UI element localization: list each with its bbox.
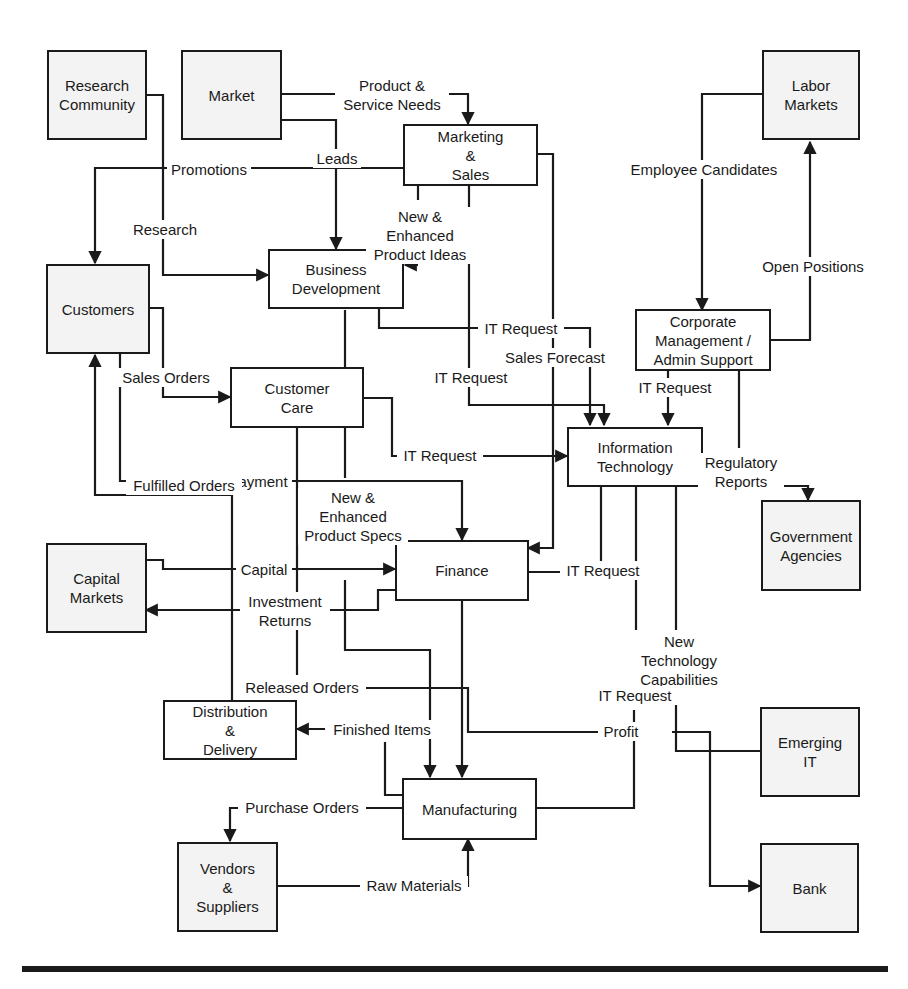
flow-label-employee-candidates: Employee Candidates <box>622 160 786 179</box>
node-finance: Finance <box>395 540 529 601</box>
flow-label-open-positions: Open Positions <box>756 257 870 276</box>
flow-label-profit: Profit <box>598 722 644 741</box>
node-emerging-it: Emerging IT <box>760 707 860 797</box>
flow-label-new-technology-capabilities: New Technology Capabilities <box>630 632 728 689</box>
flow-label-new-enhanced-product-specs: New & Enhanced Product Specs <box>298 488 408 545</box>
node-market: Market <box>181 50 282 140</box>
node-customer-care: Customer Care <box>230 367 364 428</box>
flow-label-promotions: Promotions <box>167 160 251 179</box>
flow-label-leads: Leads <box>313 149 361 168</box>
flow-label-it-request-manufacturing: IT Request <box>592 686 678 705</box>
node-labor-markets: Labor Markets <box>762 50 860 140</box>
flow-label-it-request-bizdev: IT Request <box>478 319 564 338</box>
node-vendors-suppliers: Vendors & Suppliers <box>177 842 278 932</box>
flow-label-investment-returns: Investment Returns <box>240 592 330 630</box>
flow-label-regulatory-reports: Regulatory Reports <box>698 453 784 491</box>
node-customers: Customers <box>46 264 150 354</box>
flow-label-fulfilled-orders: Fulfilled Orders <box>126 476 242 495</box>
node-bank: Bank <box>760 843 859 933</box>
bottom-rule-divider <box>22 966 888 972</box>
node-manufacturing: Manufacturing <box>402 778 537 840</box>
flow-label-product-service-needs: Product & Service Needs <box>335 76 449 114</box>
flow-label-it-request-finance: IT Request <box>560 561 646 580</box>
flow-label-sales-orders: Sales Orders <box>117 368 215 387</box>
flow-label-new-enhanced-product-ideas: New & Enhanced Product Ideas <box>366 207 474 264</box>
node-information-technology: Information Technology <box>567 427 703 487</box>
flow-label-released-orders: Released Orders <box>238 678 366 697</box>
node-distribution-delivery: Distribution & Delivery <box>163 700 297 760</box>
flow-label-raw-materials: Raw Materials <box>360 876 468 895</box>
flow-label-purchase-orders: Purchase Orders <box>238 798 366 817</box>
flow-label-sales-forecast: Sales Forecast <box>498 348 612 367</box>
flow-label-it-request-customer-care: IT Request <box>397 446 483 465</box>
node-marketing-sales: Marketing & Sales <box>403 124 538 186</box>
flow-label-research: Research <box>128 220 202 239</box>
node-research-community: Research Community <box>47 50 147 140</box>
node-capital-markets: Capital Markets <box>46 543 147 633</box>
flow-label-capital: Capital <box>236 560 292 579</box>
flow-label-it-request-corporate: IT Request <box>632 378 718 397</box>
flow-label-it-request-marketing: IT Request <box>428 368 514 387</box>
node-corporate-management: Corporate Management / Admin Support <box>635 309 771 371</box>
flow-label-finished-items: Finished Items <box>327 720 437 739</box>
node-government-agencies: Government Agencies <box>761 500 861 591</box>
